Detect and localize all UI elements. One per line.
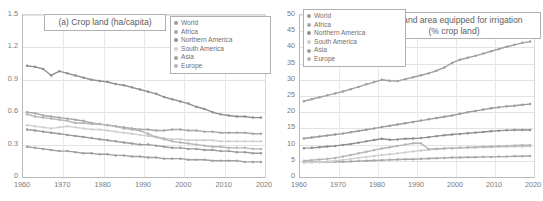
legend-item-northern-america[interactable]: Northern America — [174, 36, 266, 45]
legend-item-africa[interactable]: Africa — [174, 28, 266, 37]
data-point — [474, 110, 477, 113]
data-point — [42, 68, 45, 71]
data-point — [435, 148, 438, 151]
data-point — [381, 147, 384, 150]
x-axis-tick-label: 1960 — [283, 181, 315, 189]
data-point — [131, 155, 134, 158]
data-point — [74, 135, 77, 138]
legend-item-asia[interactable]: Asia — [174, 53, 266, 62]
data-point — [529, 40, 532, 43]
data-point — [498, 106, 501, 109]
data-point — [42, 116, 45, 119]
data-point — [459, 156, 462, 159]
data-point — [443, 157, 446, 160]
data-point — [227, 147, 230, 150]
data-point — [34, 125, 37, 128]
legend-item-europe[interactable]: Europe — [174, 62, 266, 71]
legend-item-asia[interactable]: Asia — [307, 46, 401, 55]
data-point — [466, 156, 469, 159]
data-point — [115, 154, 118, 157]
data-point — [42, 130, 45, 133]
x-axis-tick-label: 2020 — [517, 181, 543, 189]
data-point — [236, 140, 239, 143]
data-point — [236, 160, 239, 163]
data-point — [505, 129, 508, 132]
legend-item-label: Northern America — [181, 36, 232, 45]
data-point — [482, 52, 485, 55]
data-point — [505, 46, 508, 49]
data-point — [482, 146, 485, 149]
data-point — [357, 152, 360, 155]
data-point — [260, 152, 263, 155]
data-point — [420, 74, 423, 77]
data-point — [66, 125, 69, 128]
data-point — [171, 98, 174, 101]
y-axis-tick-label: 0.3 — [0, 140, 18, 148]
data-point — [106, 129, 109, 132]
y-axis-tick-label: 50 — [271, 10, 295, 18]
data-point — [123, 131, 126, 134]
data-point — [195, 148, 198, 151]
y-axis-tick-label: 5 — [271, 156, 295, 164]
legend-item-europe[interactable]: Europe — [307, 55, 401, 64]
data-point — [365, 83, 368, 86]
legend-item-world[interactable]: World — [307, 12, 401, 21]
data-point — [26, 111, 29, 114]
legend-item-south-america[interactable]: South America — [174, 45, 266, 54]
data-point — [90, 79, 93, 82]
data-point — [195, 139, 198, 142]
data-point — [529, 129, 532, 132]
x-axis-tick-label: 1960 — [6, 181, 38, 189]
legend-item-label: South America — [181, 45, 224, 54]
data-point — [98, 153, 101, 156]
y-axis-tick-label: 1.2 — [0, 42, 18, 50]
legend-item-northern-america[interactable]: Northern America — [307, 29, 401, 38]
data-point — [211, 149, 214, 152]
legend-item-label: South America — [314, 38, 357, 47]
chart-legend: WorldAfricaNorthern AmericaSouth America… — [170, 16, 271, 74]
data-point — [373, 81, 376, 84]
legend-item-world[interactable]: World — [174, 19, 266, 28]
data-point — [131, 128, 134, 131]
data-point — [420, 142, 423, 145]
data-point — [42, 126, 45, 129]
data-point — [252, 133, 255, 136]
y-axis-tick-label: 0.6 — [0, 107, 18, 115]
data-point — [334, 133, 337, 136]
data-point — [90, 123, 93, 126]
data-point — [505, 145, 508, 148]
data-point — [252, 161, 255, 164]
data-point — [303, 100, 306, 103]
data-point — [396, 145, 399, 148]
data-point — [451, 133, 454, 136]
data-point — [195, 143, 198, 146]
data-point — [521, 103, 524, 106]
y-axis-tick-label: 1.5 — [0, 10, 18, 18]
data-point — [326, 94, 329, 97]
legend-item-south-america[interactable]: South America — [307, 38, 401, 47]
data-point — [211, 160, 214, 163]
data-point — [131, 86, 134, 89]
data-point — [155, 93, 158, 96]
series-africa — [303, 155, 532, 164]
data-point — [244, 147, 247, 150]
x-axis-tick-label: 1990 — [400, 181, 432, 189]
data-point — [482, 156, 485, 159]
x-axis-tick-label: 1980 — [87, 181, 119, 189]
data-point — [349, 158, 352, 161]
legend-item-africa[interactable]: Africa — [307, 21, 401, 30]
data-point — [42, 114, 45, 117]
x-axis-tick-label: 2000 — [167, 181, 199, 189]
data-point — [396, 152, 399, 155]
data-point — [179, 157, 182, 160]
data-point — [42, 148, 45, 151]
data-point — [219, 150, 222, 153]
data-point — [139, 155, 142, 158]
data-point — [388, 159, 391, 162]
data-point — [513, 155, 516, 158]
data-point — [123, 127, 126, 129]
legend-marker-icon — [174, 64, 178, 68]
data-point — [459, 58, 462, 61]
data-point — [396, 138, 399, 141]
data-point — [163, 146, 166, 149]
